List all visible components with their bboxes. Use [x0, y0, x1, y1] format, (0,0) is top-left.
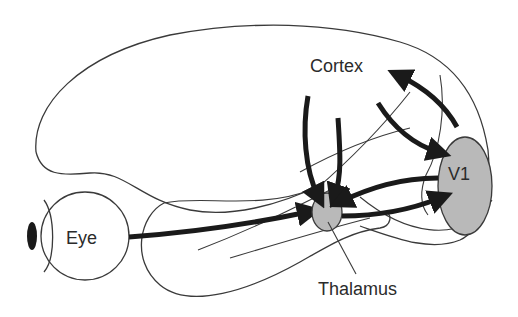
thalamus-nucleus: [312, 193, 342, 231]
v1-nucleus: [438, 137, 492, 235]
arrow-cortex-to-v1: [378, 103, 438, 152]
arrow-eye-to-thalamus: [129, 212, 308, 237]
eye-label: Eye: [66, 228, 97, 248]
arrow-thalamus-to-v1: [342, 198, 440, 216]
inner-contour-1: [300, 128, 410, 172]
eye-pupil: [27, 222, 37, 250]
inner-contour-2: [315, 92, 410, 190]
cortex-lower-outline: [36, 152, 320, 212]
temporal-lobe-upper-outline: [164, 190, 310, 203]
arrow-v1-to-cortex: [400, 76, 457, 127]
arrow-cortex-to-thalamus-1: [305, 96, 318, 196]
brain-outline: [36, 25, 489, 244]
cortex-label: Cortex: [310, 56, 363, 76]
arrow-cortex-to-thalamus-2: [335, 118, 340, 195]
thalamus-pointer: [328, 222, 356, 274]
visual-pathway-diagram: Eye Thalamus V1 Cortex: [0, 0, 518, 317]
thalamus-label: Thalamus: [318, 279, 397, 299]
v1-label: V1: [448, 164, 470, 184]
